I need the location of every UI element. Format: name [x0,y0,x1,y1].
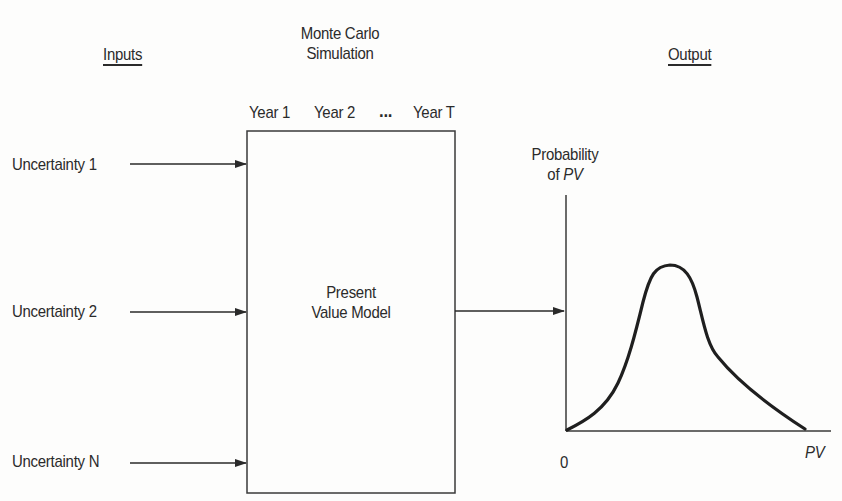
present-value-model-box [247,131,455,493]
pv-distribution-curve [567,265,805,430]
diagram-graphics [0,0,842,501]
